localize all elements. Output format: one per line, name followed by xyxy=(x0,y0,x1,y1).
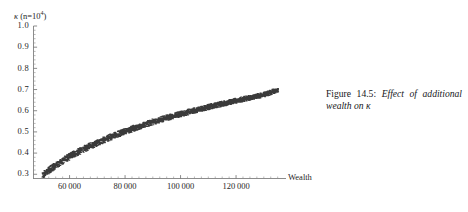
y-tick-label: 0.8 xyxy=(3,64,29,73)
figure-container: 0.30.40.50.60.70.80.91.0 60 00080 000100… xyxy=(0,0,468,212)
y-tick-label: 0.3 xyxy=(3,169,29,178)
figure-caption: Figure 14.5: Effect of additional wealth… xyxy=(326,88,462,113)
scatter-plot xyxy=(0,0,312,212)
x-tick-label: 100 000 xyxy=(157,182,205,191)
figure-caption-symbol: κ xyxy=(366,100,371,111)
data-point-cloud xyxy=(42,89,278,178)
y-axis-title-prefix: (n=10 xyxy=(18,11,41,21)
x-tick-label: 120 000 xyxy=(212,182,260,191)
y-tick-label: 0.6 xyxy=(3,106,29,115)
scatter-series xyxy=(42,89,278,178)
x-tick-label: 80 000 xyxy=(101,182,149,191)
y-axis-ticks xyxy=(34,26,38,174)
y-tick-label: 0.7 xyxy=(3,85,29,94)
y-tick-label: 1.0 xyxy=(3,21,29,30)
plot-panel: 0.30.40.50.60.70.80.91.0 60 00080 000100… xyxy=(0,0,312,212)
x-axis-title: Wealth xyxy=(288,172,312,182)
y-axis-title: κ (n=104) xyxy=(14,11,46,21)
x-axis-ticks xyxy=(42,175,278,178)
y-axis-title-suffix: ) xyxy=(44,11,47,21)
figure-caption-number: Figure 14.5: xyxy=(326,88,376,99)
x-tick-label: 60 000 xyxy=(46,182,94,191)
y-tick-label: 0.4 xyxy=(3,148,29,157)
y-tick-label: 0.5 xyxy=(3,127,29,136)
y-tick-label: 0.9 xyxy=(3,42,29,51)
